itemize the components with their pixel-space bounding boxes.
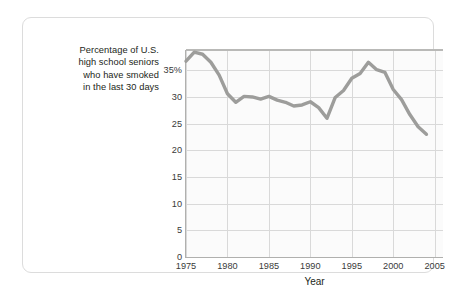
figure-card: Percentage of U.S. high school seniors w… [22, 17, 434, 273]
x-tick-label: 2000 [371, 261, 415, 271]
y-tick-label: 35% [142, 65, 182, 75]
x-axis-title: Year [186, 276, 443, 287]
x-tick-label: 1985 [247, 261, 291, 271]
y-axis-tick-labels: 05101520253035% [139, 50, 182, 257]
x-tick-label: 1990 [288, 261, 332, 271]
y-tick-label: 25 [142, 119, 182, 129]
x-tick-label: 2005 [413, 261, 457, 271]
x-tick-label: 1980 [205, 261, 249, 271]
y-tick-label: 30 [142, 92, 182, 102]
x-tick-label: 1975 [164, 261, 208, 271]
x-tick-label: 1995 [330, 261, 374, 271]
y-tick-label: 15 [142, 172, 182, 182]
y-tick-label: 5 [142, 225, 182, 235]
y-tick-label: 20 [142, 145, 182, 155]
y-tick-label: 10 [142, 199, 182, 209]
data-series-line [186, 50, 443, 257]
x-axis-tick-labels: 1975198019851990199520002005 [186, 261, 443, 275]
